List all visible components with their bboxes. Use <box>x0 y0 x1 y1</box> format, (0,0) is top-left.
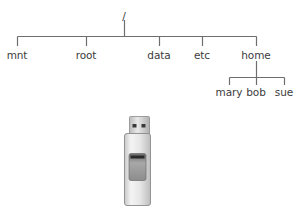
dir-home-bob: bob <box>246 86 265 98</box>
dir-home-sue: sue <box>275 86 293 98</box>
dir-mnt: mnt <box>7 49 28 61</box>
dir-data: data <box>147 49 170 61</box>
usb-drive-icon <box>125 117 151 206</box>
dir-home: home <box>241 49 270 61</box>
tree-connectors <box>0 0 302 215</box>
dir-etc: etc <box>194 49 210 61</box>
tree-root-label: / <box>122 10 125 22</box>
dir-home-mary: mary <box>216 86 243 98</box>
filesystem-diagram: / mnt root data etc home mary bob sue <box>0 0 302 215</box>
dir-root: root <box>76 49 97 61</box>
